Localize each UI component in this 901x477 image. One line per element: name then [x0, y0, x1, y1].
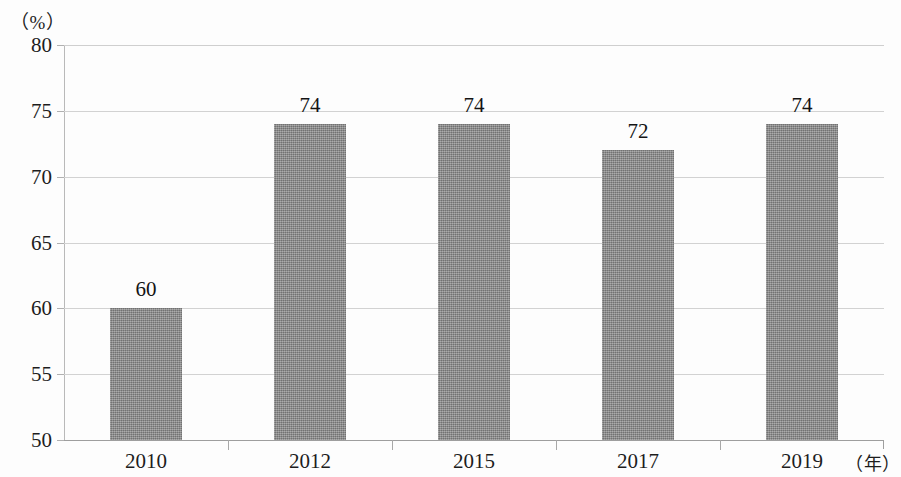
y-axis-tick [57, 308, 64, 309]
gridline [64, 45, 884, 46]
bar [438, 124, 510, 440]
y-axis-tick-label: 80 [6, 33, 52, 58]
bar-chart: （%） 80757065605550 6074747274 2010201220… [0, 0, 901, 477]
y-axis-tick-label: 60 [6, 296, 52, 321]
bar-value-label: 74 [762, 93, 842, 118]
bar-value-label: 74 [270, 93, 350, 118]
y-axis-unit-label: （%） [10, 7, 65, 34]
y-axis-tick [57, 243, 64, 244]
bar [110, 308, 182, 440]
bar-value-label: 72 [598, 119, 678, 144]
x-axis-tick-label: 2010 [96, 449, 196, 474]
y-axis-tick-label: 55 [6, 362, 52, 387]
bar [602, 150, 674, 440]
x-axis-unit-label: （年） [845, 449, 901, 475]
y-axis-tick [57, 111, 64, 112]
bar [766, 124, 838, 440]
y-axis-tick [57, 177, 64, 178]
y-axis-tick-label: 75 [6, 98, 52, 123]
x-axis-tick-label: 2012 [260, 449, 360, 474]
plot-area: 6074747274 [64, 45, 884, 440]
bar-value-label: 60 [106, 277, 186, 302]
y-axis-tick [57, 440, 64, 441]
x-axis-tick-label: 2015 [424, 449, 524, 474]
x-axis-tick-label: 2019 [752, 449, 852, 474]
x-axis-tick-labels: 20102012201520172019 [64, 449, 884, 477]
y-axis-tick-label: 70 [6, 164, 52, 189]
y-axis-tick-labels: 80757065605550 [0, 45, 52, 440]
x-axis-tick-label: 2017 [588, 449, 688, 474]
y-axis-tick [57, 374, 64, 375]
bar-value-label: 74 [434, 93, 514, 118]
bar [274, 124, 346, 440]
y-axis-tick-label: 65 [6, 230, 52, 255]
x-axis-end-cap [883, 440, 884, 449]
y-axis-tick [57, 45, 64, 46]
y-axis-tick-label: 50 [6, 428, 52, 453]
gridline [64, 440, 884, 441]
